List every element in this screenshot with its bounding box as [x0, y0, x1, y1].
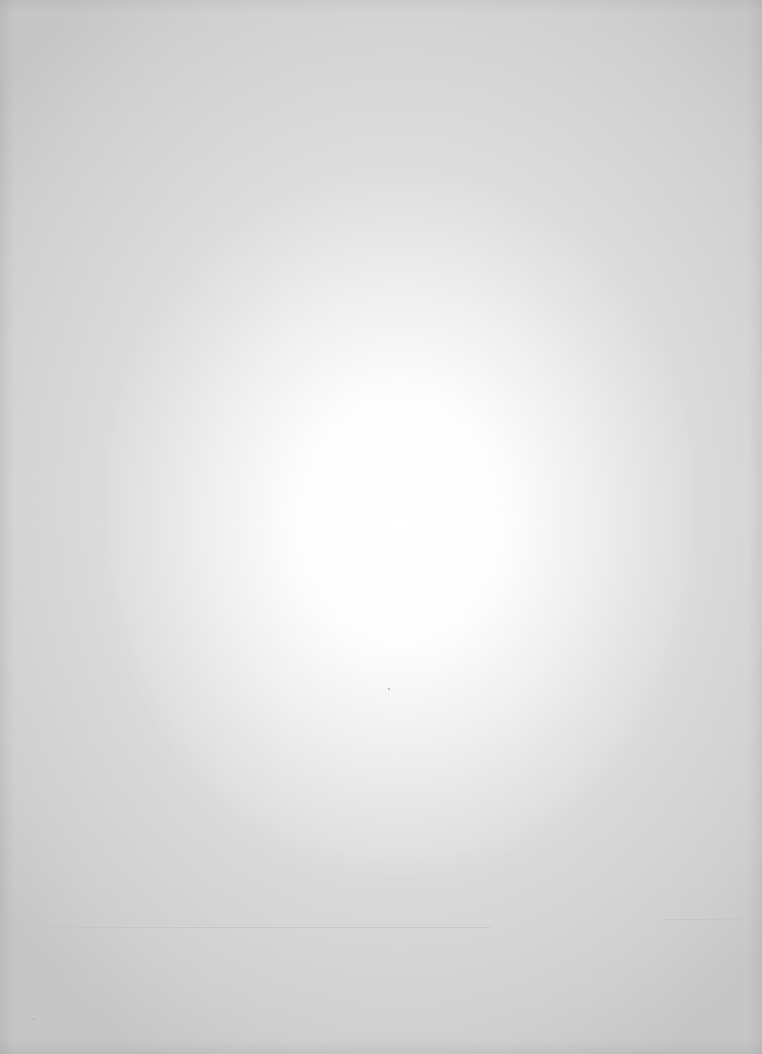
scan-vignette [0, 0, 762, 1054]
paper-grain [0, 0, 762, 1054]
dust-speck [388, 688, 390, 690]
blank-scanned-page [0, 0, 762, 1054]
paper-crease-line-right [665, 919, 760, 920]
paper-crease-line-left [20, 927, 490, 928]
dust-speck [33, 1018, 35, 1020]
